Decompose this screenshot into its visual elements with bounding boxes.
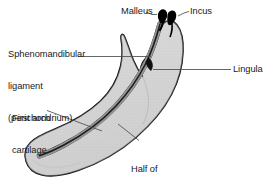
leader-incus-a [178,13,184,16]
label-first-arch-line2: cartilage [12,145,50,156]
label-lingula: Lingula [233,64,263,75]
label-first-arch-cartilage: First arch cartilage [12,92,50,177]
label-incus: Incus [190,6,212,17]
label-sphenomandibular-line1: Sphenomandibular [8,49,85,60]
leader-incus-b [184,12,189,14]
label-half-mandible-line1: Half of [131,164,168,175]
label-malleus: Malleus [121,6,153,17]
label-first-arch-line1: First arch [12,113,50,124]
mandible-development-figure: Sphenomandibular ligament (perichondrium… [0,0,273,193]
label-sphenomandibular-line2: ligament [8,81,85,92]
label-half-of-mandible: Half of mandible [131,143,168,193]
